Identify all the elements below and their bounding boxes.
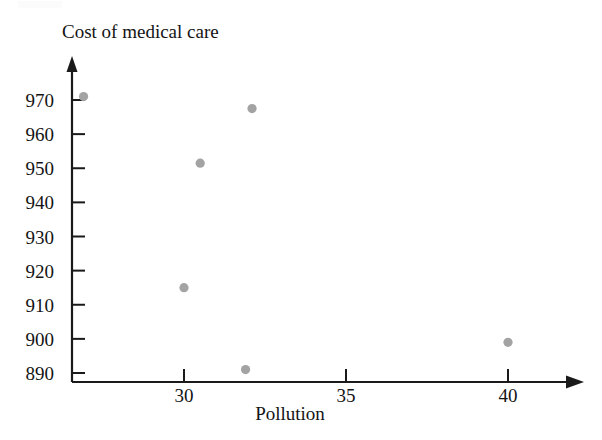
x-axis-ticks bbox=[184, 369, 508, 382]
x-axis-arrowhead bbox=[566, 376, 584, 389]
x-tick-label: 30 bbox=[175, 386, 194, 405]
data-point bbox=[196, 159, 205, 168]
y-axis-arrowhead bbox=[67, 56, 78, 72]
data-point bbox=[241, 365, 250, 374]
scatter-plot: Cost of medical care Pollution 890900910… bbox=[0, 0, 602, 440]
data-point bbox=[503, 338, 512, 347]
plot-canvas bbox=[0, 0, 602, 440]
data-point bbox=[179, 283, 188, 292]
y-axis-ticks bbox=[72, 100, 85, 373]
x-tick-label: 35 bbox=[337, 386, 356, 405]
data-point-group bbox=[79, 92, 513, 374]
data-point bbox=[79, 92, 88, 101]
x-tick-label: 40 bbox=[499, 386, 518, 405]
data-point bbox=[247, 104, 256, 113]
